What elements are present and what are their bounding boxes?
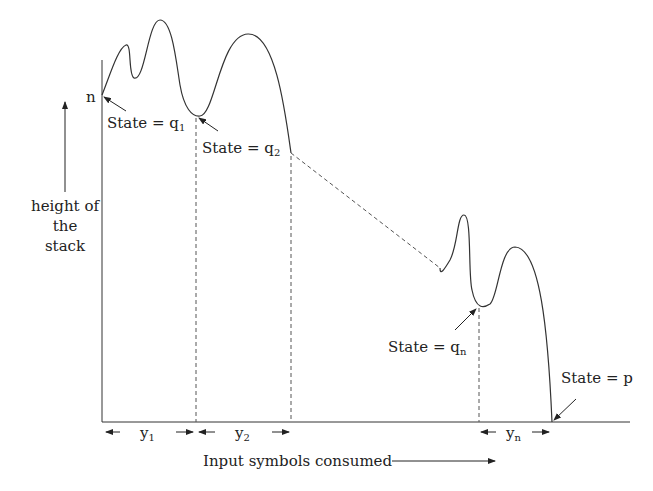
y-axis-label: height of the stack — [20, 196, 110, 256]
segment-label-y1: y1 — [140, 426, 155, 443]
state-label-q1: State = q1 — [107, 116, 185, 133]
state-label-qn: State = qn — [388, 340, 466, 357]
state-label-p: State = p — [561, 371, 633, 386]
segment-label-y2: y2 — [235, 426, 250, 443]
stack-height-curve-2 — [440, 215, 552, 422]
pointer-p — [554, 399, 576, 420]
y-axis-label-line-3: stack — [20, 236, 110, 256]
x-axis-label: Input symbols consumed — [203, 454, 392, 469]
dashed-continuation — [291, 153, 440, 268]
segment-label-yn: yn — [506, 426, 521, 443]
pointer-qn — [455, 309, 476, 330]
y-axis-label-line-2: the — [20, 216, 110, 236]
pointer-q-start — [104, 97, 126, 111]
start-height-label: n — [86, 90, 96, 105]
pointer-q1 — [199, 118, 218, 131]
y-axis-label-line-1: height of — [20, 196, 110, 216]
state-label-q2: State = q2 — [202, 141, 280, 158]
